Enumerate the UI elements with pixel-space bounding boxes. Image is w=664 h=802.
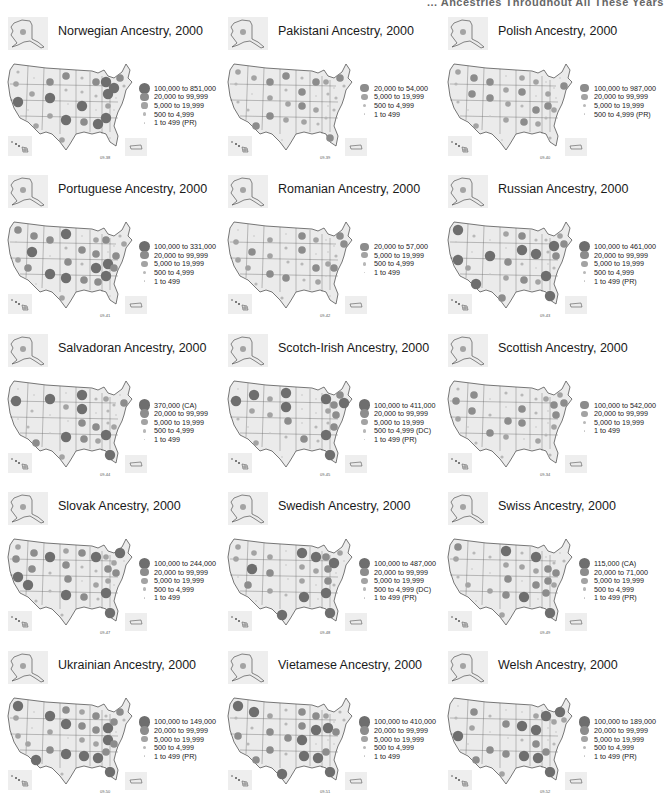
- legend-circle-icon: [358, 104, 371, 108]
- legend-label: 1 to 499 (PR): [154, 118, 197, 127]
- legend-circle-icon: [578, 597, 591, 599]
- legend-row: 20,000 to 99,999: [138, 726, 216, 735]
- ancestry-map-panel-6: Russian Ancestry, 2000 09-43 10: [440, 168, 664, 326]
- map-title: Salvadoran Ancestry, 2000: [58, 341, 206, 355]
- legend-row: 500 to 4,999: [138, 585, 216, 594]
- legend-row: 20,000 to 99,999: [358, 726, 436, 735]
- map-grid: Norwegian Ancestry, 2000 09-38: [0, 10, 664, 802]
- legend-circle-icon: [138, 726, 151, 734]
- legend-row: 5,000 to 19,999: [578, 418, 656, 427]
- alaska-inset: [228, 492, 268, 525]
- alaska-inset: [8, 175, 48, 208]
- puerto-rico-inset: [565, 772, 587, 790]
- alaska-inset: [8, 334, 48, 367]
- legend-circle-icon: [358, 726, 371, 734]
- legend-row: 20,000 to 99,999: [578, 409, 656, 418]
- legend-row: 20,000 to 99,999: [138, 568, 216, 577]
- legend-row: 500 to 4,999: [138, 743, 216, 752]
- legend-circle-icon: [358, 587, 371, 591]
- legend-label: 1 to 499: [374, 110, 400, 119]
- legend-row: 500 to 4,999: [138, 268, 216, 277]
- figure-number: 09-38: [100, 155, 110, 160]
- legend-circle-icon: [358, 578, 371, 584]
- puerto-rico-inset: [565, 613, 587, 631]
- hawaii-inset: [8, 770, 32, 790]
- legend-circle-icon: [578, 261, 591, 267]
- legend-circle-icon: [578, 113, 591, 115]
- legend-row: 5,000 to 19,999: [578, 260, 656, 269]
- map-legend: 20,000 to 57,0005,000 to 19,999500 to 4,…: [358, 242, 428, 276]
- legend-row: 500 to 4,999: [358, 743, 436, 752]
- figure-number: 09-42: [320, 313, 330, 318]
- ancestry-map-panel-1: Norwegian Ancestry, 2000 09-38: [0, 10, 220, 168]
- puerto-rico-inset: [125, 613, 147, 631]
- legend-row: 100,000 to 987,000: [578, 84, 656, 93]
- legend-row: 5,000 to 19,999: [358, 93, 428, 102]
- ancestry-map-panel-2: Pakistani Ancestry, 2000 09-39: [220, 10, 440, 168]
- map-legend: 370,000 (CA)20,000 to 99,9995,000 to 19,…: [138, 401, 208, 444]
- legend-circle-icon: [358, 94, 371, 100]
- legend-label: 1 to 499 (PR): [374, 593, 417, 602]
- puerto-rico-inset: [345, 613, 367, 631]
- ancestry-map-panel-5: Romanian Ancestry, 2000 09-42 2: [220, 168, 440, 326]
- legend-circle-icon: [578, 401, 591, 409]
- legend-row: 5,000 to 19,999: [138, 260, 216, 269]
- legend-circle-icon: [578, 421, 591, 425]
- legend-circle-icon: [578, 411, 591, 417]
- legend-circle-icon: [578, 251, 591, 259]
- hawaii-inset: [448, 294, 472, 314]
- legend-row: 500 to 4,999: [358, 260, 428, 269]
- legend-row: 370,000 (CA): [138, 401, 208, 410]
- legend-label: 1 to 499: [374, 752, 400, 761]
- legend-row: 20,000 to 99,999: [358, 568, 436, 577]
- alaska-inset: [8, 651, 48, 684]
- legend-circle-icon: [138, 261, 151, 267]
- legend-row: 5,000 to 19,999: [578, 576, 648, 585]
- legend-label: 1 to 499 (PR): [594, 752, 637, 761]
- map-title: Vietamese Ancestry, 2000: [278, 658, 422, 672]
- legend-row: 1 to 499: [138, 277, 216, 286]
- legend-circle-icon: [578, 568, 591, 576]
- legend-circle-icon: [578, 280, 591, 282]
- legend-row: 1 to 499 (PR): [358, 594, 436, 603]
- legend-circle-icon: [358, 409, 371, 417]
- figure-number: 09-52: [540, 789, 550, 794]
- map-legend: 100,000 to 189,00020,000 to 99,9995,000 …: [578, 718, 656, 761]
- puerto-rico-inset: [565, 455, 587, 473]
- map-legend: 100,000 to 410,00020,000 to 99,9995,000 …: [358, 718, 436, 761]
- legend-row: 20,000 to 57,000: [358, 242, 428, 251]
- hawaii-inset: [8, 294, 32, 314]
- legend-row: 100,000 to 244,000: [138, 559, 216, 568]
- legend-row: 100,000 to 851,000: [138, 84, 216, 93]
- legend-circle-icon: [138, 755, 151, 757]
- legend-circle-icon: [138, 271, 151, 275]
- legend-row: 100,000 to 461,000: [578, 242, 656, 251]
- hawaii-inset: [448, 611, 472, 631]
- legend-row: 20,000 to 99,999: [138, 93, 216, 102]
- puerto-rico-inset: [125, 772, 147, 790]
- legend-circle-icon: [138, 578, 151, 584]
- legend-row: 500 to 4,999: [578, 743, 656, 752]
- legend-label: 1 to 499 (PR): [154, 752, 197, 761]
- map-title: Slovak Ancestry, 2000: [58, 499, 181, 513]
- hawaii-inset: [8, 453, 32, 473]
- map-title: Welsh Ancestry, 2000: [498, 658, 618, 672]
- legend-circle-icon: [138, 736, 151, 742]
- map-title: Swedish Ancestry, 2000: [278, 499, 410, 513]
- figure-number: 09-44: [100, 472, 110, 477]
- figure-number: 09-45: [320, 472, 330, 477]
- figure-number: 09-34: [540, 472, 550, 477]
- map-title: Scotch-Irish Ancestry, 2000: [278, 341, 429, 355]
- legend-label: 1 to 499 (PR): [594, 593, 637, 602]
- legend-row: 20,000 to 54,000: [358, 84, 428, 93]
- figure-number: 09-43: [540, 313, 550, 318]
- legend-label: 1 to 499: [154, 277, 180, 286]
- legend-row: 5,000 to 19,999: [138, 576, 216, 585]
- map-legend: 100,000 to 487,00020,000 to 99,9995,000 …: [358, 559, 436, 602]
- ancestry-map-panel-15: Welsh Ancestry, 2000 09-52 100,: [440, 644, 664, 802]
- legend-circle-icon: [578, 736, 591, 742]
- legend-row: 115,000 (CA): [578, 559, 648, 568]
- puerto-rico-inset: [125, 138, 147, 156]
- legend-label: 1 to 499 (PR): [594, 277, 637, 286]
- ancestry-map-panel-4: Portuguese Ancestry, 2000 09-41: [0, 168, 220, 326]
